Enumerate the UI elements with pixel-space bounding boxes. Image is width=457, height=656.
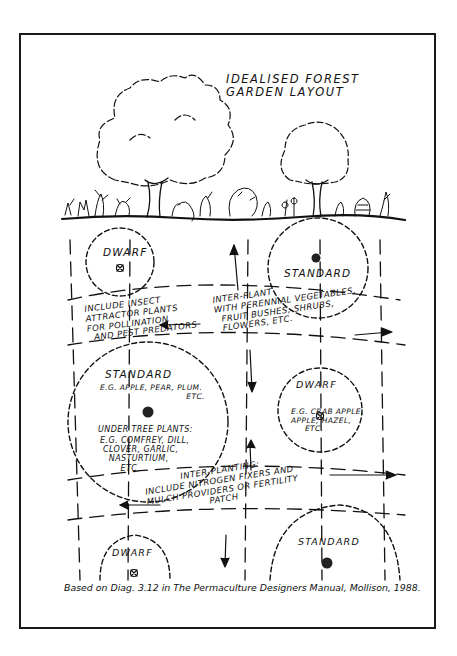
zone-label-standard-left: Standard <box>105 368 172 380</box>
diagram-title: Idealised Forest Garden Layout <box>226 73 360 99</box>
under-tree-plants-list: E.G. Comfrey, Dill, Clover, Garlic, Nast… <box>100 436 189 473</box>
small-tree-icon <box>281 122 348 184</box>
standard-left-examples: E.G. Apple, Pear, Plum. Etc. <box>100 384 205 401</box>
zone-label-dwarf-bottom: Dwarf <box>112 548 153 559</box>
under-tree-plants-label: Under Tree Plants: <box>98 425 193 434</box>
zone-label-dwarf-right: Dwarf <box>296 380 337 391</box>
dwarf-right-examples: E.G. Crab Apple, Apple, Hazel, Etc. <box>291 408 364 434</box>
zone-label-standard-bottom: Standard <box>298 537 360 548</box>
large-tree-icon <box>97 75 233 186</box>
ground-line-icon <box>62 215 405 220</box>
zone-label-dwarf-top: Dwarf <box>103 246 147 258</box>
dwarf-crown-top <box>86 228 154 296</box>
source-caption: Based on Diag. 3.12 in The Permaculture … <box>64 582 421 593</box>
title-line-2: Garden Layout <box>226 85 344 99</box>
title-line-1: Idealised Forest <box>226 72 360 86</box>
